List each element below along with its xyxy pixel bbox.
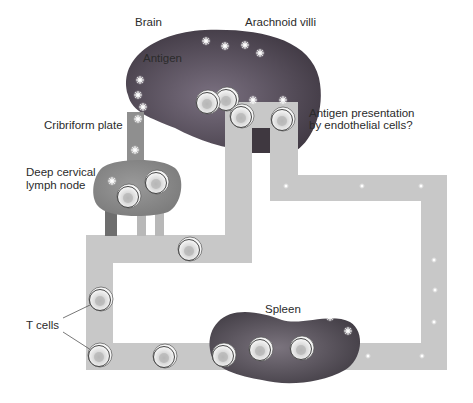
antigen-star-icon [248, 95, 258, 105]
t-cell-icon [117, 184, 141, 208]
antigen-star-icon [107, 176, 117, 186]
t-cell-icon [145, 170, 169, 194]
antigen-dot-icon [365, 353, 371, 359]
antigen-dot-icon [283, 183, 289, 189]
t-cell-icon [271, 107, 295, 131]
brain-exit-dark-square-overlay [252, 128, 270, 153]
t-cell-icon [249, 337, 273, 361]
antigen-dot-icon [359, 183, 365, 189]
antigen-dot-icon [432, 287, 438, 293]
label-antigen: Antigen [143, 51, 182, 65]
label-arachnoid-villi: Arachnoid villi [245, 15, 316, 29]
diagram-canvas: Brain Arachnoid villi Antigen Cribriform… [0, 0, 473, 403]
label-cribriform-plate: Cribriform plate [44, 118, 123, 132]
t-cell-icon [88, 343, 112, 367]
antigen-star-icon [130, 145, 140, 155]
antigen-dot-icon [419, 353, 425, 359]
antigen-star-icon [325, 312, 335, 322]
antigen-star-icon [133, 114, 143, 124]
antigen-star-icon [135, 75, 145, 85]
t-cell-icon [196, 90, 220, 114]
vessel-right-vertical [421, 175, 447, 370]
t-cell-icon [212, 343, 236, 367]
label-deep-cervical-line2: lymph node [26, 178, 85, 192]
antigen-star-icon [278, 95, 288, 105]
antigen-dot-icon [418, 183, 424, 189]
antigen-star-icon [240, 40, 250, 50]
label-brain: Brain [135, 15, 162, 29]
label-spleen: Spleen [265, 302, 301, 316]
t-cell-pointer-upper [63, 305, 90, 318]
antigen-star-icon [201, 36, 211, 46]
label-t-cells: T cells [26, 318, 59, 332]
antigen-star-icon [133, 90, 143, 100]
label-antigen-presentation-line2: by endothelial cells? [309, 118, 413, 132]
t-cell-icon [290, 336, 314, 360]
diagram-svg [0, 0, 473, 403]
t-cell-icon [153, 344, 177, 368]
antigen-dot-icon [431, 257, 437, 263]
t-cell-icon [230, 104, 254, 128]
antigen-dot-icon [431, 319, 437, 325]
antigen-star-icon [138, 102, 148, 112]
antigen-star-icon [343, 326, 353, 336]
t-cell-icon [89, 287, 113, 311]
t-cell-icon [178, 237, 202, 261]
antigen-star-icon [220, 41, 230, 51]
antigen-star-icon [255, 48, 265, 58]
label-deep-cervical-line1: Deep cervical [26, 165, 96, 179]
